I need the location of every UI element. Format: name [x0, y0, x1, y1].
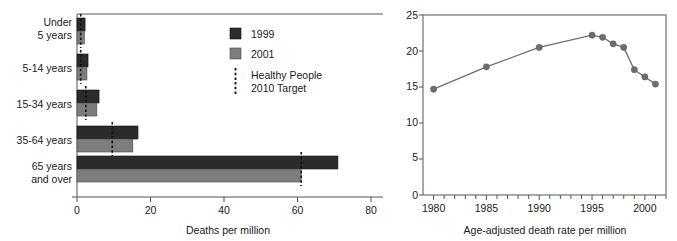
line-x-tick-labels: 19801985199019952000 — [422, 202, 657, 214]
line-xtick-label-3: 1995 — [580, 202, 604, 214]
bar-xtick-label-0: 0 — [74, 204, 80, 216]
line-series-points — [430, 32, 658, 92]
line-point-1996 — [600, 34, 606, 40]
bar-cat-label-2-line0: 15-34 years — [17, 98, 72, 110]
bar-xtick-label-2: 40 — [218, 204, 230, 216]
bar-cat-label-4-line0: 65 years — [32, 160, 72, 172]
bar-cat-label-4-line1: and over — [31, 173, 72, 185]
line-ytick-label-10: 10 — [406, 116, 418, 128]
bar-chart-panel: 0 20 40 60 80 Under 5 years 5-14 years 1… — [0, 0, 390, 241]
line-point-1997 — [610, 41, 616, 47]
bar-2001-4 — [77, 169, 301, 182]
line-ytick-label-25: 25 — [406, 9, 418, 21]
line-xtick-label-1: 1985 — [475, 202, 499, 214]
line-ytick-label-20: 20 — [406, 45, 418, 57]
bar-2001-1 — [77, 67, 87, 80]
bar-1999-4 — [77, 156, 338, 169]
line-y-ticks — [419, 15, 423, 195]
bar-x-axis-title: Deaths per million — [186, 224, 270, 236]
figure-root: 0 20 40 60 80 Under 5 years 5-14 years 1… — [0, 0, 677, 241]
line-x-ticks — [434, 195, 666, 200]
bar-1999-3 — [77, 126, 138, 139]
line-ytick-label-0: 0 — [412, 189, 418, 201]
line-chart-panel: 25 20 15 10 5 0 19801985199019952000 Age… — [390, 0, 677, 241]
bar-cat-label-3-line0: 35-64 years — [17, 134, 72, 146]
line-point-2000 — [642, 74, 648, 80]
bar-series-group — [77, 18, 338, 182]
bar-category-labels: Under 5 years 5-14 years 15-34 years 35-… — [17, 16, 73, 185]
legend-label-target-line1: Healthy People — [251, 69, 322, 81]
bar-2001-2 — [77, 103, 97, 116]
bar-cat-label-1-line0: 5-14 years — [22, 62, 72, 74]
line-plot-frame — [423, 15, 666, 195]
line-xtick-label-2: 1990 — [528, 202, 552, 214]
bar-2001-3 — [77, 139, 133, 152]
line-chart-svg: 25 20 15 10 5 0 19801985199019952000 Age… — [390, 0, 677, 241]
line-point-1980 — [430, 86, 436, 92]
bar-x-ticks — [77, 197, 371, 202]
bar-chart-svg: 0 20 40 60 80 Under 5 years 5-14 years 1… — [0, 0, 390, 241]
line-series-path — [434, 35, 656, 89]
legend-label-target-line2: 2010 Target — [251, 82, 306, 94]
line-x-axis-title: Age-adjusted death rate per million — [464, 224, 627, 236]
bar-legend: 1999 2001 Healthy People 2010 Target — [230, 28, 322, 94]
legend-label-2001: 2001 — [251, 48, 275, 60]
line-xtick-label-0: 1980 — [422, 202, 446, 214]
line-point-1985 — [483, 64, 489, 70]
legend-swatch-2001 — [230, 48, 241, 59]
legend-label-1999: 1999 — [251, 28, 275, 40]
line-point-2001 — [652, 81, 658, 87]
line-point-1995 — [589, 32, 595, 38]
bar-cat-label-0-line0: Under — [43, 16, 72, 28]
line-point-1990 — [536, 44, 542, 50]
line-xtick-label-4: 2000 — [633, 202, 657, 214]
line-ytick-label-15: 15 — [406, 80, 418, 92]
bar-xtick-label-3: 60 — [292, 204, 304, 216]
line-ytick-label-5: 5 — [412, 151, 418, 163]
bar-1999-1 — [77, 54, 88, 67]
legend-swatch-1999 — [230, 28, 241, 39]
line-point-1999 — [631, 67, 637, 73]
bar-xtick-label-4: 80 — [365, 204, 377, 216]
bar-1999-2 — [77, 90, 99, 103]
bar-xtick-label-1: 20 — [145, 204, 157, 216]
bar-cat-label-0-line1: 5 years — [38, 29, 72, 41]
line-point-1998 — [621, 44, 627, 50]
